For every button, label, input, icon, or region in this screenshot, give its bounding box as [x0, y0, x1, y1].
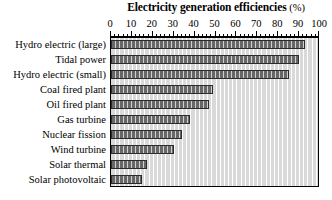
bar [111, 85, 213, 94]
bar [111, 160, 147, 169]
chart-title-main: Electricity generation efficiencies [127, 1, 286, 13]
bar [111, 40, 305, 49]
bar-row [111, 113, 319, 128]
bar [111, 115, 190, 124]
x-tick-label: 20 [147, 18, 158, 30]
category-label: Solar photovoltaic [29, 173, 106, 186]
bar-row [111, 158, 319, 173]
x-tick-label: 30 [167, 18, 178, 30]
bar-row [111, 128, 319, 143]
bar-row [111, 53, 319, 68]
x-tick-label: 80 [272, 18, 283, 30]
x-tick-label: 0 [107, 18, 112, 30]
plot-area [110, 37, 319, 187]
y-axis-category-labels: Hydro electric (large)Tidal powerHydro e… [0, 37, 108, 187]
category-label: Solar thermal [49, 158, 106, 171]
bar [111, 130, 182, 139]
chart-title-unit: (%) [289, 2, 304, 13]
category-label: Tidal power [55, 53, 106, 66]
bar-row [111, 98, 319, 113]
category-label: Hydro electric (large) [15, 38, 106, 51]
x-tick-label: 60 [230, 18, 241, 30]
x-tick-label: 50 [209, 18, 220, 30]
bar-row [111, 143, 319, 158]
chart-title: Electricity generation efficiencies (%) [110, 1, 322, 13]
bar-chart: Electricity generation efficiencies (%) … [0, 0, 332, 200]
bar-row [111, 38, 319, 53]
category-label: Oil fired plant [47, 98, 106, 111]
x-tick-label: 90 [293, 18, 304, 30]
bar-row [111, 68, 319, 83]
bar-row [111, 173, 319, 187]
category-label: Hydro electric (small) [13, 68, 106, 81]
bar [111, 70, 289, 79]
category-label: Coal fired plant [40, 83, 106, 96]
x-tick-label: 10 [126, 18, 137, 30]
bars-layer [111, 38, 318, 186]
x-axis-tick-labels: 0102030405060708090100 [0, 18, 332, 31]
x-tick-label: 40 [188, 18, 199, 30]
bar-row [111, 83, 319, 98]
bar [111, 145, 174, 154]
bar [111, 175, 142, 184]
x-tick-label: 70 [251, 18, 262, 30]
bar [111, 100, 209, 109]
bar [111, 55, 299, 64]
category-label: Nuclear fission [42, 128, 106, 141]
x-tick-label: 100 [311, 18, 327, 30]
category-label: Wind turbine [51, 143, 106, 156]
category-label: Gas turbine [57, 113, 106, 126]
